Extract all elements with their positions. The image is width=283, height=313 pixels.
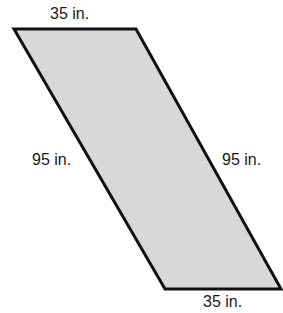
top-side-label: 35 in.	[50, 5, 89, 22]
bottom-side-label: 35 in.	[203, 293, 242, 310]
parallelogram-diagram: 35 in. 35 in. 95 in. 95 in.	[0, 0, 283, 313]
left-side-label: 95 in.	[32, 151, 71, 168]
right-side-label: 95 in.	[222, 151, 261, 168]
